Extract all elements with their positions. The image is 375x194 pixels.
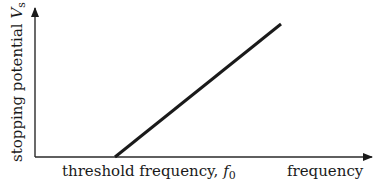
threshold-label-text: threshold frequency, (62, 162, 223, 180)
y-axis-label-var: V (8, 8, 26, 19)
y-axis-label: stopping potential Vs (8, 2, 28, 162)
x-axis-label: frequency (287, 162, 363, 180)
y-axis-label-sub: s (15, 2, 28, 8)
threshold-frequency-label: threshold frequency, f0 (62, 162, 236, 182)
data-line (115, 24, 281, 157)
threshold-label-sub: 0 (229, 169, 236, 182)
y-axis-label-text: stopping potential (8, 19, 26, 162)
